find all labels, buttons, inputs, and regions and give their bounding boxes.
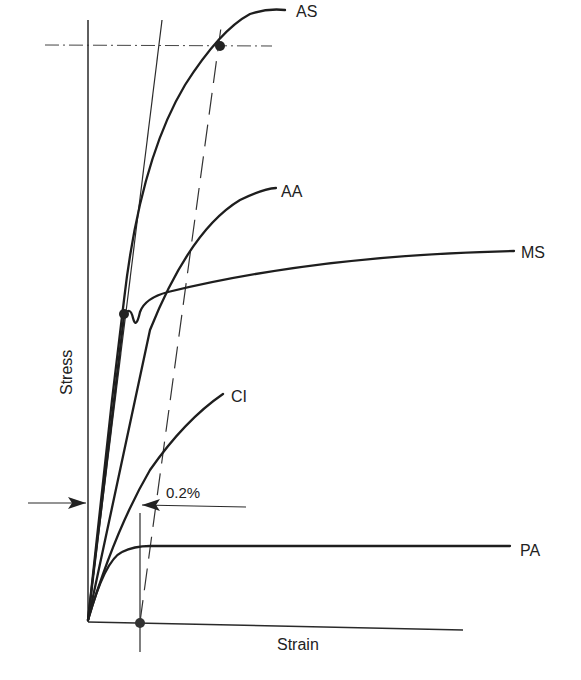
label-as: AS [296, 3, 317, 20]
offset-line [140, 20, 222, 622]
yield-point [119, 309, 129, 319]
offset-origin-point [135, 618, 145, 628]
label-ms: MS [521, 244, 545, 261]
curve-ms [88, 251, 514, 620]
x-axis-label: Strain [277, 636, 319, 653]
label-aa: AA [281, 183, 303, 200]
offset-label: 0.2% [166, 484, 200, 501]
label-pa: PA [520, 542, 540, 559]
stress-strain-diagram: 0.2% AS AA MS CI PA Strain Stress [0, 0, 581, 680]
proof-stress-point [215, 41, 225, 51]
right-arrow-shaft [142, 505, 246, 507]
label-ci: CI [231, 388, 247, 405]
curve-as [88, 10, 285, 621]
y-axis-label: Stress [58, 350, 75, 395]
offset-dimension: 0.2% [28, 484, 246, 511]
curve-pa [88, 546, 510, 620]
